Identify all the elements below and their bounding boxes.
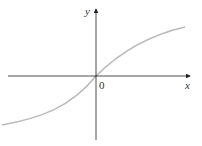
- x-axis-label: x: [184, 79, 190, 91]
- y-axis-label: y: [84, 5, 90, 17]
- chart: y x 0: [0, 0, 202, 146]
- origin-label: 0: [99, 79, 105, 91]
